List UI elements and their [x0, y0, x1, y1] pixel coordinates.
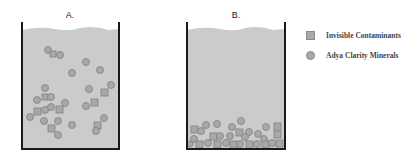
panel-a-label: A. — [66, 10, 75, 20]
legend-item-contaminants: Invisible Contaminants — [306, 31, 401, 40]
circle-swatch-icon — [306, 51, 315, 60]
water-a — [22, 27, 119, 149]
legend-label: Adya Clarity Minerals — [326, 51, 399, 60]
legend-item-minerals: Adya Clarity Minerals — [306, 51, 399, 60]
square-swatch-icon — [306, 31, 315, 40]
panel-b-label: B. — [232, 10, 241, 20]
legend-label: Invisible Contaminants — [326, 31, 401, 40]
beaker-a — [22, 22, 119, 149]
beaker-b — [187, 22, 285, 149]
